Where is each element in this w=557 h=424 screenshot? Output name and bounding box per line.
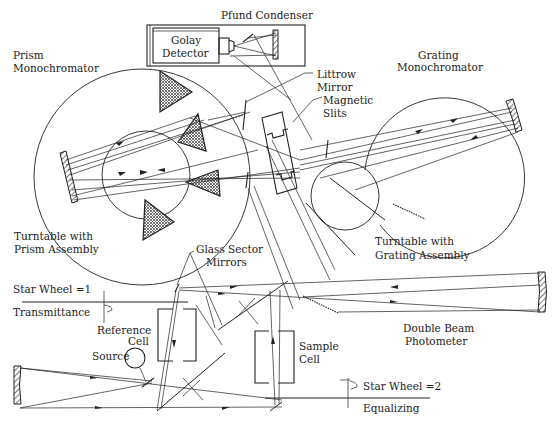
label-prism-mono-2: Monochromator	[13, 62, 100, 74]
photometer-spherical-mirror	[538, 272, 547, 312]
sample-cell	[255, 331, 294, 383]
prism-top	[160, 71, 192, 112]
optical-diagram: Pfund Condenser Golay Detector Prism Mon…	[0, 0, 557, 424]
label-turntable-prism-2: Prism Assembly	[14, 243, 99, 255]
star-wheel-1-rotation-icon	[104, 305, 112, 312]
label-turntable-grating-2: Grating Assembly	[375, 249, 470, 261]
grating-mirror-flat	[393, 204, 425, 219]
label-sample-cell-2: Cell	[299, 353, 321, 365]
prism-bottom	[143, 200, 174, 240]
grating-collimator-mirror	[506, 99, 522, 132]
chopper-upper	[236, 298, 258, 324]
golay-detector	[219, 38, 234, 54]
label-double-beam-2: Photometer	[405, 335, 468, 347]
label-transmittance: Transmittance	[13, 306, 90, 318]
label-equalizing: Equalizing	[363, 402, 420, 414]
magnetic-slits	[262, 112, 297, 194]
label-slits-1: Magnetic	[323, 94, 373, 106]
label-turntable-grating-1: Turntable with	[375, 235, 454, 247]
prism-rays	[66, 112, 300, 200]
label-golay-1: Golay	[171, 34, 201, 46]
label-glass-sector-1: Glass Sector	[196, 243, 264, 255]
label-sample-cell-1: Sample	[299, 340, 339, 352]
label-littrow-1: Littrow	[317, 68, 356, 80]
glass-sector-mirror-lower	[157, 353, 225, 411]
pfund-condenser-mirror	[273, 30, 278, 59]
label-slits-2: Slits	[323, 107, 347, 119]
label-double-beam-1: Double Beam	[403, 322, 474, 334]
label-star-wheel-2: Star Wheel =2	[363, 380, 441, 392]
label-reference-cell-2: Cell	[128, 335, 150, 347]
label-source: Source	[92, 350, 129, 362]
condenser-rays	[230, 33, 312, 140]
label-glass-sector-2: Mirrors	[206, 256, 247, 268]
reference-cell	[158, 309, 196, 361]
label-turntable-prism-1: Turntable with	[14, 230, 93, 242]
grating-2	[306, 203, 355, 255]
diagram-canvas: Pfund Condenser Golay Detector Prism Mon…	[0, 0, 557, 424]
glass-sector-mirror-upper	[218, 281, 288, 330]
label-prism-mono-1: Prism	[13, 49, 44, 61]
photometer-ray-arrows	[90, 285, 398, 410]
label-grating-mono-2: Monochromator	[397, 61, 484, 73]
littrow-mirror	[243, 100, 246, 130]
label-golay-2: Detector	[162, 47, 209, 59]
slit-entrance-mirror	[246, 172, 248, 188]
glass-sector-mirror-right	[270, 402, 282, 411]
grating-rays	[300, 108, 518, 190]
label-pfund-condenser: Pfund Condenser	[221, 9, 314, 21]
star-wheel-2-rotation-icon	[340, 380, 357, 389]
source-spherical-mirror	[14, 366, 21, 404]
label-grating-mono-1: Grating	[418, 49, 459, 61]
label-littrow-2: Mirror	[317, 81, 353, 93]
prism-right	[186, 170, 220, 196]
slit-exit-mirror	[326, 140, 328, 158]
label-star-wheel-1: Star Wheel =1	[13, 283, 91, 295]
source-mirror	[142, 378, 154, 387]
